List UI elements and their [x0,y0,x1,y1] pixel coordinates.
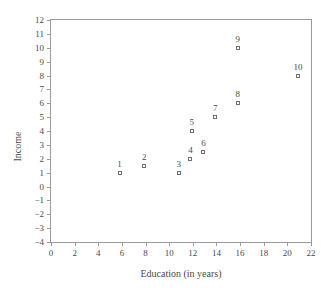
x-axis-tick [98,242,99,246]
x-axis-tick [311,242,312,246]
y-axis-tick-label: 9 [40,57,45,66]
y-axis-tick [47,159,51,160]
x-axis-tick [240,242,241,246]
y-axis-tick [47,173,51,174]
x-axis-tick-label: 4 [96,249,101,258]
x-axis-tick [169,242,170,246]
data-point-label: 7 [213,104,218,113]
data-point-label: 4 [188,146,193,155]
x-axis-tick-label: 2 [72,249,77,258]
data-point [213,115,217,119]
y-axis-tick [47,89,51,90]
y-axis-tick-label: 7 [40,85,45,94]
y-axis-tick-label: 10 [35,43,44,52]
data-point [190,129,194,133]
y-axis-tick [47,145,51,146]
x-axis-tick [122,242,123,246]
y-axis-tick-label: 3 [40,140,45,149]
data-point [201,150,205,154]
data-point-label: 5 [189,118,194,127]
x-axis-title: Education (in years) [50,268,312,279]
data-point [177,171,181,175]
data-point [236,101,240,105]
x-axis-tick [75,242,76,246]
y-axis-tick [47,117,51,118]
y-axis-tick [47,214,51,215]
y-axis-tick [47,131,51,132]
data-point-label: 6 [201,139,206,148]
y-axis-tick [47,228,51,229]
data-point-label: 1 [117,160,122,169]
data-point [118,171,122,175]
y-axis-tick [47,76,51,77]
x-axis-tick [216,242,217,246]
y-axis-tick-label: 6 [40,99,45,108]
y-axis-tick [47,103,51,104]
y-axis-tick-label: −4 [34,238,44,247]
y-axis-tick-label: 5 [40,113,45,122]
x-axis-tick [51,242,52,246]
data-point-label: 9 [235,35,240,44]
y-axis-tick [47,20,51,21]
data-point [236,46,240,50]
y-axis-title-text: Income [12,131,23,161]
data-point-label: 10 [294,63,303,72]
y-axis-tick-label: 4 [40,127,45,136]
x-axis-tick [193,242,194,246]
data-point [296,74,300,78]
plot-area: 1211109876543210−1−2−3−40246810121416182… [51,20,311,242]
y-axis-tick-label: 2 [40,154,45,163]
y-axis-tick [47,200,51,201]
data-point-label: 2 [142,153,147,162]
x-axis-tick-label: 10 [165,249,174,258]
scatter-plot-figure: Income 1211109876543210−1−2−3−4024681012… [0,0,336,292]
y-axis-tick-label: −2 [34,210,44,219]
data-point [188,157,192,161]
y-axis-tick-label: 12 [35,16,44,25]
x-axis-tick-label: 22 [307,249,316,258]
x-axis-tick-label: 14 [212,249,221,258]
x-axis-tick-label: 12 [188,249,197,258]
data-point [142,164,146,168]
x-axis-tick-label: 20 [283,249,292,258]
y-axis-tick-label: 0 [40,182,45,191]
y-axis-tick-label: 1 [40,168,45,177]
x-axis-tick [146,242,147,246]
y-axis-tick-label: −3 [34,224,44,233]
data-point-label: 8 [235,90,240,99]
y-axis-tick [47,62,51,63]
data-point-label: 3 [176,160,181,169]
y-axis-title: Income [10,0,24,292]
y-axis-tick-label: 8 [40,71,45,80]
x-axis-tick-label: 6 [120,249,125,258]
x-axis-tick-label: 8 [143,249,148,258]
y-axis-tick-label: −1 [34,196,44,205]
x-axis-tick-label: 18 [259,249,268,258]
x-axis-tick [287,242,288,246]
x-axis-tick-label: 0 [49,249,54,258]
y-axis-tick [47,48,51,49]
x-axis-tick [264,242,265,246]
y-axis-tick [47,34,51,35]
plot-frame: 1211109876543210−1−2−3−40246810121416182… [50,19,312,243]
y-axis-tick-label: 11 [35,29,44,38]
y-axis-tick [47,187,51,188]
x-axis-tick-label: 16 [236,249,245,258]
